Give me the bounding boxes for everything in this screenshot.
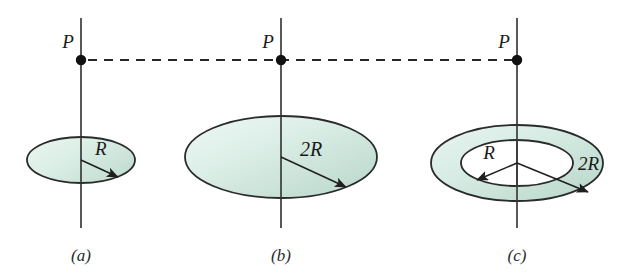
outer-radius-label-c: 2R <box>578 153 600 174</box>
physics-figure: R P (a) 2R P (b) R <box>0 0 629 280</box>
radius-label-a: R <box>94 138 107 159</box>
panel-a: R P (a) <box>27 18 135 265</box>
caption-a: (a) <box>71 246 91 265</box>
point-p-a <box>76 55 86 65</box>
caption-c: (c) <box>508 246 527 265</box>
point-p-b <box>276 55 286 65</box>
radius-label-b: 2R <box>300 138 322 160</box>
inner-radius-label-c: R <box>482 142 495 163</box>
panel-c: R 2R P (c) <box>425 18 609 265</box>
point-p-c <box>512 55 522 65</box>
figure-canvas: R P (a) 2R P (b) R <box>0 0 629 280</box>
point-label-a: P <box>61 31 74 52</box>
point-label-b: P <box>261 31 274 52</box>
point-label-c: P <box>497 31 510 52</box>
panel-b: 2R P (b) <box>185 18 377 265</box>
caption-b: (b) <box>271 246 291 265</box>
